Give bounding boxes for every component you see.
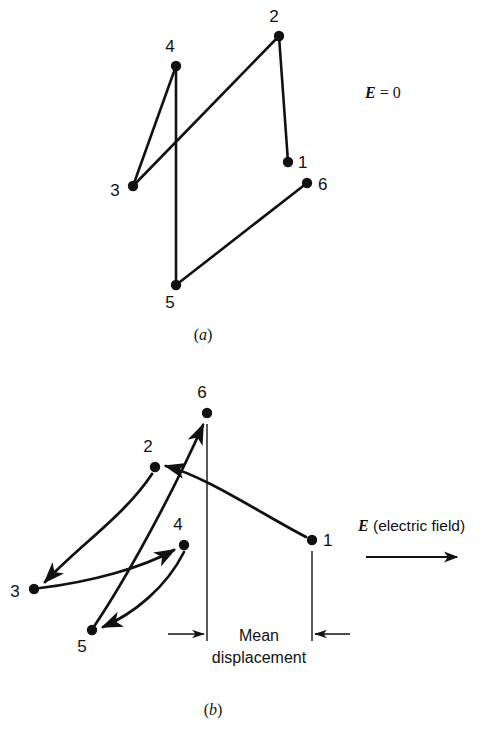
electric-field-label: E (electric field) — [357, 517, 465, 534]
field-zero-label: E = 0 — [364, 84, 401, 101]
arrow-3-4 — [40, 550, 174, 588]
panel-a: 1 2 3 4 5 6 E = 0 (a) — [110, 7, 400, 344]
caption-a: (a) — [194, 326, 213, 344]
segment-1-2 — [279, 36, 288, 162]
node-label-a-2: 2 — [269, 7, 278, 26]
panel-b-node-labels: 1 2 3 4 5 6 — [10, 383, 332, 656]
caption-b-close: ) — [217, 701, 222, 719]
panel-b-caption: (b) — [204, 701, 223, 719]
node-label-b-6: 6 — [197, 383, 206, 402]
mean-displacement-label-line2: displacement — [212, 649, 307, 666]
segment-3-4 — [133, 66, 176, 186]
diagram-svg: 1 2 3 4 5 6 E = 0 (a) — [0, 0, 496, 737]
mean-displacement-dimension: Mean displacement — [168, 627, 350, 666]
node-dot-b-4 — [179, 540, 189, 550]
field-symbol-a: E — [364, 84, 376, 101]
node-dot-a-1 — [283, 157, 293, 167]
node-dot-a-2 — [274, 31, 284, 41]
segment-2-3 — [133, 36, 279, 186]
node-label-a-3: 3 — [110, 181, 119, 200]
field-value-a: = 0 — [376, 84, 401, 101]
panel-a-caption: (a) — [194, 326, 213, 344]
node-dot-b-3 — [29, 584, 39, 594]
panel-a-field-label: E = 0 — [364, 84, 401, 101]
caption-b: (b) — [204, 701, 223, 719]
panel-b: 1 2 3 4 5 6 Mean displacement E (electri… — [10, 383, 465, 719]
segment-5-6 — [176, 183, 307, 285]
node-dot-b-5 — [87, 625, 97, 635]
node-dot-b-6 — [202, 408, 212, 418]
caption-b-letter: b — [209, 701, 217, 718]
caption-a-close: ) — [207, 326, 212, 344]
arrow-1-2 — [166, 466, 306, 537]
panel-a-path-segments — [133, 36, 307, 285]
node-label-b-3: 3 — [10, 582, 19, 601]
field-text-b: (electric field) — [369, 517, 465, 534]
node-dot-a-6 — [302, 178, 312, 188]
mean-displacement-label-line1: Mean — [239, 627, 279, 644]
node-dot-b-2 — [150, 462, 160, 472]
node-label-b-2: 2 — [143, 437, 152, 456]
node-label-b-4: 4 — [173, 515, 182, 534]
node-label-a-1: 1 — [298, 153, 307, 172]
figure-container: 1 2 3 4 5 6 E = 0 (a) — [0, 0, 496, 737]
node-label-b-5: 5 — [77, 637, 86, 656]
node-label-a-4: 4 — [165, 37, 174, 56]
node-dot-b-1 — [307, 535, 317, 545]
field-symbol-b: E — [357, 517, 369, 534]
caption-a-letter: a — [199, 326, 207, 343]
node-label-a-5: 5 — [165, 293, 174, 312]
node-dot-a-3 — [128, 181, 138, 191]
node-label-a-6: 6 — [318, 175, 327, 194]
node-label-b-1: 1 — [323, 531, 332, 550]
node-dot-a-5 — [171, 280, 181, 290]
electric-field-annotation: E (electric field) — [357, 517, 465, 557]
node-dot-a-4 — [171, 61, 181, 71]
